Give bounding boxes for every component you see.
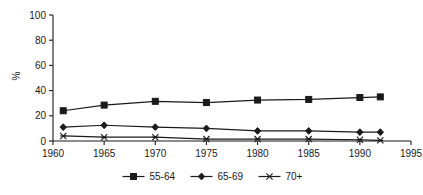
x-tick-label: 1960 xyxy=(42,148,65,159)
x-tick-label: 1995 xyxy=(400,148,423,159)
data-point-marker xyxy=(60,108,66,114)
legend-label: 65-69 xyxy=(218,171,244,182)
y-tick-label: 20 xyxy=(35,110,47,121)
data-point-marker xyxy=(377,94,383,100)
y-tick-label: 0 xyxy=(40,136,46,147)
square-marker xyxy=(131,174,137,180)
x-tick-label: 1975 xyxy=(195,148,218,159)
line-chart: % 020406080100 1960196519701975198019851… xyxy=(0,0,423,195)
x-tick-label: 1980 xyxy=(246,148,269,159)
data-point-marker xyxy=(203,100,209,106)
data-point-marker xyxy=(101,102,107,108)
data-point-marker xyxy=(306,96,312,102)
data-point-marker xyxy=(357,95,363,101)
y-axis-title: % xyxy=(11,71,22,80)
legend-label: 70+ xyxy=(286,171,303,182)
y-tick-label: 100 xyxy=(29,10,46,21)
data-point-marker xyxy=(255,97,261,103)
y-tick-label: 60 xyxy=(35,60,47,71)
x-tick-label: 1970 xyxy=(144,148,167,159)
y-tick-label: 80 xyxy=(35,35,47,46)
x-tick-label: 1985 xyxy=(298,148,321,159)
chart-canvas: % 020406080100 1960196519701975198019851… xyxy=(0,0,423,195)
data-point-marker xyxy=(152,98,158,104)
legend-label: 55-64 xyxy=(150,171,176,182)
y-tick-label: 40 xyxy=(35,85,47,96)
x-tick-label: 1990 xyxy=(349,148,372,159)
x-tick-label: 1965 xyxy=(93,148,116,159)
